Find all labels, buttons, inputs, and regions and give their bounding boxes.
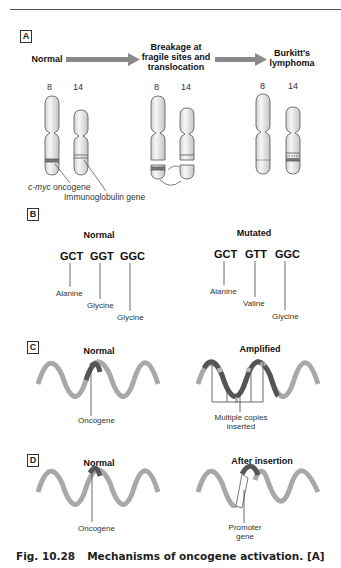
cmyc-oncogene-annotation: c-myc oncogene (28, 183, 90, 192)
dna-normal-c (38, 362, 158, 397)
amino-acid-normal-2: Glycine (87, 301, 114, 310)
promoter-gene-segment (236, 474, 248, 508)
figure-caption: Fig. 10.28Mechanisms of oncogene activat… (16, 550, 325, 562)
amino-acid-mutated-3: Glycine (272, 312, 299, 321)
normal-title-b: Normal (74, 230, 124, 240)
codon-normal-1: GCT (60, 250, 83, 262)
chromosome-8-breakage (151, 96, 165, 179)
chromosome-14-burkitt (286, 107, 300, 174)
figure-graphics (0, 0, 341, 568)
oncogene-annotation-c: Oncogene (78, 416, 115, 425)
codon-normal-2: GGT (90, 250, 114, 262)
codon-mutated-3: GGC (275, 248, 300, 260)
dna-normal-d (38, 468, 158, 504)
after-insertion-title-d: After insertion (222, 456, 302, 466)
promoter-gene-annotation: Promoter gene (225, 523, 265, 541)
multiple-copies-annotation: Multiple copies inserted (210, 413, 272, 431)
figure-caption-text: Mechanisms of oncogene activation. [A] (87, 550, 325, 562)
chromosome-8-normal (45, 96, 59, 175)
amino-acid-normal-1: Alanine (56, 289, 83, 298)
mutated-title-b: Mutated (229, 228, 279, 238)
arrow-icon (215, 53, 267, 66)
codon-normal-3: GGC (120, 250, 145, 262)
panel-label-d: D (27, 454, 39, 467)
panel-label-c: C (27, 341, 39, 354)
chromosome-14-breakage (180, 108, 194, 179)
codon-mutated-2: GTT (245, 248, 267, 260)
arrow-icon (66, 53, 140, 66)
amino-acid-normal-3: Glycine (117, 313, 144, 322)
figure-number: Fig. 10.28 (16, 550, 75, 562)
dna-insertion-d (198, 466, 318, 505)
immunoglobulin-gene-annotation: Immunoglobulin gene (64, 193, 145, 202)
amino-acid-mutated-1: Alanine (210, 287, 237, 296)
normal-title-d: Normal (74, 458, 124, 468)
amino-acid-mutated-2: Valine (243, 299, 265, 308)
dna-amplified-c (198, 362, 318, 400)
panel-label-b: B (27, 208, 39, 221)
amplified-title-c: Amplified (230, 344, 290, 354)
oncogene-annotation-d: Oncogene (78, 524, 115, 533)
codon-mutated-1: GCT (214, 248, 237, 260)
chromosome-14-normal (74, 110, 88, 175)
chromosome-8-burkitt (256, 94, 270, 174)
normal-title-c: Normal (74, 346, 124, 356)
